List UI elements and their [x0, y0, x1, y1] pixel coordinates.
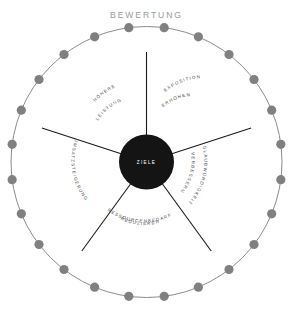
ring-marker-dot: [8, 140, 17, 149]
ring-marker-dot: [249, 75, 258, 84]
ring-marker-dot: [90, 283, 99, 292]
ring-marker-dot: [17, 106, 26, 115]
ring-marker-dot: [160, 23, 169, 32]
ring-marker-dot: [194, 32, 203, 41]
ring-marker-dot: [276, 140, 285, 149]
ring-marker-dot: [90, 32, 99, 41]
chart-title: BEWERTUNG: [110, 10, 183, 20]
ring-marker-dot: [124, 23, 133, 32]
ring-marker-dot: [224, 265, 233, 274]
center-hub-label: ZIELE: [137, 160, 156, 165]
ring-marker-dot: [59, 50, 68, 59]
ring-marker-dot: [267, 106, 276, 115]
ring-marker-dot: [124, 292, 133, 301]
ring-marker-dot: [17, 209, 26, 218]
ring-marker-dot: [8, 175, 17, 184]
wheel-svg-canvas: BEWERTUNG EXPOSITION ERHÖHEN: [0, 0, 293, 309]
ring-marker-dot: [34, 75, 43, 84]
ring-marker-dot: [59, 265, 68, 274]
ring-marker-dot: [249, 240, 258, 249]
ring-marker-dot: [194, 283, 203, 292]
ring-marker-dot: [34, 240, 43, 249]
ring-marker-dot: [276, 175, 285, 184]
ring-marker-dot: [224, 50, 233, 59]
ring-marker-dot: [267, 209, 276, 218]
goal-wheel-diagram: BEWERTUNG EXPOSITION ERHÖHEN: [0, 0, 293, 309]
ring-marker-dot: [160, 292, 169, 301]
